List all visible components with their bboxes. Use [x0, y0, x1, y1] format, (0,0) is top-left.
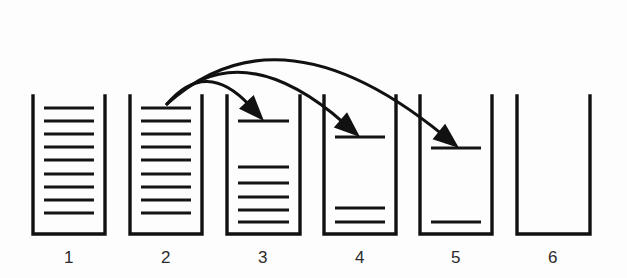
arrow-head-icon [433, 124, 459, 148]
column-label-2: 2 [161, 248, 171, 267]
column-label-4: 4 [355, 248, 365, 267]
bin-wall-3 [227, 96, 300, 234]
diagram-root: 123456 [0, 0, 627, 278]
bin-column-1 [33, 96, 105, 234]
arrow-curve [167, 60, 443, 135]
diagram-canvas: 123456 [0, 0, 627, 278]
column-label-3: 3 [258, 248, 268, 267]
arrow-2-to-5 [167, 60, 459, 148]
bin-wall-5 [420, 96, 492, 234]
bin-wall-6 [517, 96, 590, 234]
bin-column-2 [130, 96, 202, 234]
bin-column-6 [517, 96, 590, 234]
arrows-layer [167, 60, 459, 148]
labels-layer: 123456 [64, 248, 558, 267]
bins-layer [33, 96, 590, 234]
bin-column-5 [420, 96, 492, 234]
arrow-2-to-3 [167, 81, 264, 121]
column-label-5: 5 [451, 248, 461, 267]
bin-column-3 [227, 96, 300, 234]
column-label-6: 6 [548, 248, 558, 267]
column-label-1: 1 [64, 248, 74, 267]
